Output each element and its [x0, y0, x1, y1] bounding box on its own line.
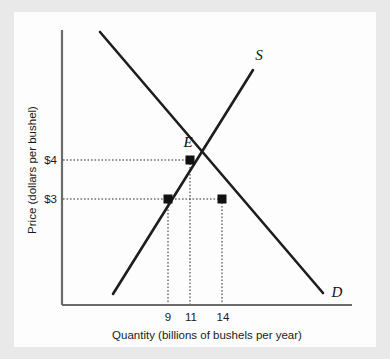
y-tick-label-4: $4 [44, 154, 57, 166]
supply-demand-chart: S D E $4 $3 9 11 14 Quantity (billions o… [14, 12, 376, 347]
supply-curve [113, 70, 253, 294]
x-tick-label-14: 14 [217, 311, 230, 323]
demand-curve [100, 32, 323, 293]
quantity-demanded-marker [218, 195, 227, 204]
plot-axes [62, 30, 352, 305]
x-tick-label-9: 9 [165, 311, 171, 323]
y-axis-title: Price (dollars per bushel) [26, 106, 38, 234]
figure-card: S D E $4 $3 9 11 14 Quantity (billions o… [14, 12, 376, 347]
equilibrium-label: E [182, 134, 192, 150]
x-axis-title: Quantity (billions of bushels per year) [112, 329, 302, 341]
x-axis-tick-labels: 9 11 14 [165, 311, 230, 323]
equilibrium-marker [186, 156, 195, 165]
y-axis-tick-labels: $4 $3 [44, 154, 57, 205]
y-tick-label-3: $3 [44, 193, 57, 205]
curves [100, 32, 323, 294]
supply-curve-label: S [255, 47, 263, 63]
demand-curve-label: D [331, 284, 343, 300]
x-tick-label-11: 11 [185, 311, 197, 323]
curve-labels: S D E [182, 47, 342, 300]
guide-lines [63, 160, 222, 304]
quantity-supplied-marker [164, 195, 173, 204]
